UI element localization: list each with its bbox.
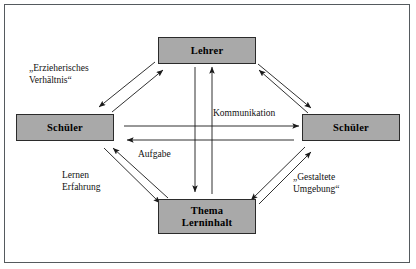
node-lehrer[interactable]: Lehrer bbox=[158, 37, 256, 64]
diagram-canvas: Lehrer Schüler Schüler Thema Lerninhalt … bbox=[0, 0, 416, 269]
node-thema-lerninhalt[interactable]: Thema Lerninhalt bbox=[158, 199, 256, 234]
arrow-schueler-right-to-lehrer bbox=[259, 70, 308, 113]
node-schueler-left[interactable]: Schüler bbox=[16, 114, 114, 141]
node-lehrer-label: Lehrer bbox=[191, 45, 224, 57]
node-thema-label-line1: Thema bbox=[191, 205, 224, 217]
arrow-lehrer-to-schueler-left bbox=[99, 62, 155, 107]
arrow-lehrer-to-schueler-right bbox=[258, 64, 311, 108]
edge-label-erzieherisches-verhaeltnis: „Erzieherisches Verhältnis“ bbox=[29, 63, 89, 86]
edge-label-kommunikation: Kommunikation bbox=[213, 108, 275, 120]
node-thema-label-line2: Lerninhalt bbox=[182, 217, 232, 229]
edge-label-lernen-erfahrung: Lernen Erfahrung bbox=[62, 170, 101, 193]
edge-label-aufgabe: Aufgabe bbox=[138, 149, 171, 161]
node-schueler-right-label: Schüler bbox=[333, 122, 369, 134]
node-schueler-right[interactable]: Schüler bbox=[302, 114, 400, 141]
node-schueler-left-label: Schüler bbox=[47, 122, 83, 134]
edge-label-gestaltete-umgebung: „Gestaltete Umgebung“ bbox=[293, 172, 339, 195]
